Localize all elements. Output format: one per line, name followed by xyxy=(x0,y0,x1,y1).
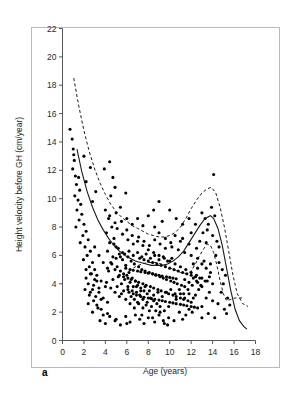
data-point xyxy=(126,277,129,280)
data-point xyxy=(195,247,198,250)
data-point xyxy=(135,291,138,294)
data-point xyxy=(154,273,157,276)
data-point xyxy=(156,288,159,291)
data-point xyxy=(78,218,81,221)
data-point xyxy=(157,313,160,316)
data-point xyxy=(169,288,172,291)
data-point xyxy=(191,311,194,314)
data-point xyxy=(125,322,128,325)
data-point xyxy=(94,295,97,298)
data-point xyxy=(186,288,189,291)
data-point xyxy=(134,313,137,316)
data-point xyxy=(153,226,156,229)
data-point xyxy=(136,251,139,254)
data-point xyxy=(179,303,182,306)
data-point xyxy=(124,191,127,194)
data-point xyxy=(71,167,74,170)
data-point xyxy=(97,286,100,289)
data-point xyxy=(116,285,119,288)
data-point xyxy=(142,258,145,261)
data-point xyxy=(92,284,95,287)
data-point xyxy=(182,292,185,295)
data-point xyxy=(150,297,153,300)
data-point xyxy=(216,302,219,305)
data-point xyxy=(186,299,189,302)
data-point xyxy=(71,138,74,141)
data-point xyxy=(217,261,220,264)
data-point xyxy=(152,294,155,297)
figure-container: 024681012141618 0246810121416182022 Age … xyxy=(0,0,292,393)
data-point xyxy=(82,258,85,261)
data-point xyxy=(110,226,113,229)
data-point xyxy=(98,319,101,322)
data-point xyxy=(106,250,109,253)
data-point xyxy=(104,208,107,211)
data-point xyxy=(165,275,168,278)
data-point xyxy=(107,269,110,272)
data-point xyxy=(139,289,142,292)
data-point xyxy=(190,254,193,257)
data-point xyxy=(120,282,123,285)
data-point xyxy=(211,282,214,285)
data-point xyxy=(168,301,171,304)
data-point xyxy=(170,245,173,248)
data-point xyxy=(92,299,95,302)
data-point xyxy=(215,240,218,243)
data-point xyxy=(152,286,155,289)
data-point xyxy=(212,173,215,176)
data-point xyxy=(137,302,140,305)
x-axis-title: Age (years) xyxy=(143,366,187,376)
data-point xyxy=(178,288,181,291)
data-point xyxy=(153,321,156,324)
data-point xyxy=(210,206,213,209)
data-point xyxy=(78,189,81,192)
data-point xyxy=(89,272,92,275)
data-point xyxy=(162,319,165,322)
data-point xyxy=(79,241,82,244)
data-point xyxy=(132,254,135,257)
data-point xyxy=(196,281,199,284)
data-point xyxy=(168,276,171,279)
data-point xyxy=(165,291,168,294)
data-point xyxy=(190,305,193,308)
data-point xyxy=(93,268,96,271)
data-point xyxy=(111,255,114,258)
data-point xyxy=(157,254,160,257)
data-point xyxy=(183,278,186,281)
data-point xyxy=(129,281,132,284)
data-point xyxy=(119,206,122,209)
data-point xyxy=(197,288,200,291)
data-point xyxy=(211,299,214,302)
data-point xyxy=(187,281,190,284)
data-point xyxy=(73,194,76,197)
data-point xyxy=(77,176,80,179)
data-point xyxy=(87,282,90,285)
data-point xyxy=(145,304,148,307)
data-point xyxy=(135,294,138,297)
data-point xyxy=(162,255,165,258)
y-tick-label: 6 xyxy=(52,250,57,260)
data-point xyxy=(161,295,164,298)
y-tick-label: 14 xyxy=(47,137,57,147)
data-point xyxy=(191,284,194,287)
data-point xyxy=(228,304,231,307)
data-point xyxy=(113,221,116,224)
data-point xyxy=(170,257,173,260)
data-point xyxy=(107,217,110,220)
data-point xyxy=(112,237,115,240)
data-point xyxy=(220,291,223,294)
data-point xyxy=(139,270,142,273)
data-point xyxy=(121,258,124,261)
data-point xyxy=(165,278,168,281)
y-tick-label: 18 xyxy=(47,80,57,90)
data-point xyxy=(175,295,178,298)
data-point xyxy=(150,305,153,308)
data-point xyxy=(200,262,203,265)
data-point xyxy=(147,248,150,251)
data-point xyxy=(83,245,86,248)
data-point xyxy=(224,274,227,277)
data-point xyxy=(175,277,178,280)
data-point xyxy=(193,306,196,309)
data-point xyxy=(111,176,114,179)
data-point xyxy=(144,271,147,274)
